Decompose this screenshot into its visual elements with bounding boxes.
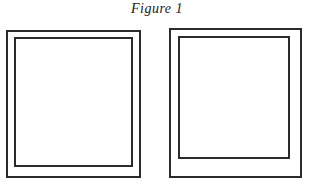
figure-caption: Figure 1: [0, 1, 314, 17]
left-panel-inner-rectangle: [14, 37, 133, 167]
figure-page: Figure 1: [0, 0, 314, 189]
right-panel-inner-rectangle: [178, 36, 290, 159]
